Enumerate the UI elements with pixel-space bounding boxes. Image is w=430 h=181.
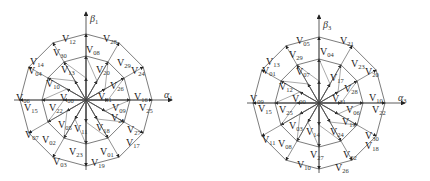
vector-label: V07 [25, 130, 39, 142]
vector-label: V02 [343, 150, 357, 162]
vector-label: V22 [49, 103, 63, 115]
vector-label: V13 [61, 65, 75, 77]
vector-label: V00 [292, 94, 306, 106]
vector-label: V04 [28, 66, 42, 78]
vector-label: V05 [296, 36, 310, 48]
vector-label: V20 [365, 67, 379, 79]
vector-label: V19 [342, 117, 356, 129]
vector-label: V23 [351, 59, 365, 71]
vector-label: V11 [262, 135, 276, 147]
vector-label: V15 [258, 104, 272, 116]
alpha3-axis-label: α3 [398, 93, 407, 105]
vector-label: V20 [96, 65, 110, 77]
vector-label: V02 [42, 135, 56, 147]
vector-label: V06 [346, 105, 360, 117]
vector-label: V12 [279, 82, 293, 94]
vector-label: V18 [365, 141, 379, 153]
beta3-axis-label: β3 [323, 20, 331, 32]
vector-label: V25 [279, 105, 293, 117]
vector-label: V19 [91, 158, 105, 170]
vector-label: V10 [297, 160, 311, 172]
diagram-alpha3-beta3: β3 α3 V05V21V29V04V13V23V20V01V07V17V12V… [215, 0, 430, 181]
vector-label: V29 [117, 58, 131, 70]
vector-label: V27 [310, 150, 324, 162]
vector-label: V08 [278, 139, 292, 151]
vector-label: V01 [262, 66, 276, 78]
vector-label: V26 [110, 81, 124, 93]
vector-label: V18 [96, 123, 110, 135]
vector-label: V28 [103, 34, 117, 46]
vector-label: V17 [330, 73, 344, 85]
vector-label: V27 [127, 125, 141, 137]
vector-label: V26 [335, 163, 349, 175]
beta1-axis-label: β1 [90, 14, 98, 26]
vector-label: V17 [126, 138, 140, 150]
vector-label: V08 [86, 45, 100, 57]
vector-label: V03 [289, 121, 303, 133]
vector-label: V24 [131, 66, 145, 78]
vector-label: V29 [289, 50, 303, 62]
vector-label: V04 [320, 47, 334, 59]
vector-label: V11 [74, 124, 88, 136]
alpha1-axis-label: α1 [164, 90, 173, 102]
vector-label: V05 [58, 120, 72, 132]
vector-label: V22 [372, 105, 386, 117]
vector-label: V25 [139, 103, 153, 115]
vector-label: V31 [332, 94, 346, 106]
vector-label: V14 [306, 127, 320, 139]
vector-label: V03 [53, 157, 67, 169]
vector-label: V10 [46, 79, 60, 91]
vector-label: V21 [340, 36, 354, 48]
vector-label: V21 [111, 113, 125, 125]
diagram-alpha1-beta1: β1 α1 V12V28V30V08V14V29V24V04V13V20V10V… [0, 0, 215, 181]
vector-label: V28 [344, 84, 358, 96]
vector-label: V31 [98, 92, 112, 104]
vector-label: V07 [296, 67, 310, 79]
vector-label: V30 [53, 48, 67, 60]
vector-label: V12 [62, 34, 76, 46]
vector-label: V01 [100, 147, 114, 159]
vector-label: V24 [330, 127, 344, 139]
vector-label: V15 [24, 103, 38, 115]
vector-label: V23 [69, 147, 83, 159]
vector-label: V10 [369, 93, 383, 105]
